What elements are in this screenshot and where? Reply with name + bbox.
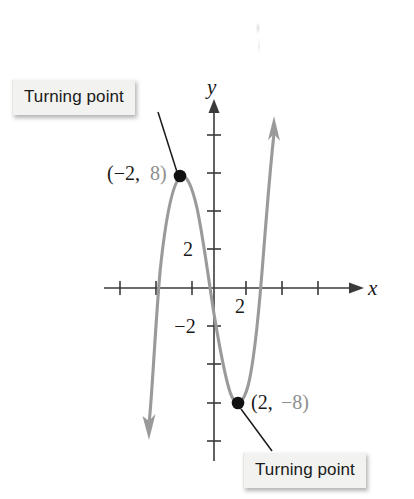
turning-point-min-label: (2, −8) (251, 391, 309, 414)
x-tick-label-positive-2: 2 (235, 295, 245, 317)
cubic-graph-figure: y x 2 −2 2 (−2, 8) (2, −8) (0, 0, 414, 499)
turning-point-min-label-gray: −8) (281, 391, 309, 414)
turning-point-max-label-gray: 8) (150, 162, 167, 185)
y-tick-label-negative-2: −2 (174, 315, 195, 337)
callout-turning-point-top[interactable]: Turning point (12, 79, 135, 115)
x-axis (104, 281, 364, 295)
callout-leader-line-bottom (241, 409, 272, 451)
callout-turning-point-bottom[interactable]: Turning point (243, 452, 366, 488)
x-axis-label: x (367, 276, 378, 300)
y-axis-label: y (205, 75, 217, 99)
y-tick-label-positive-2: 2 (183, 238, 193, 260)
turning-point-max-label-black: (−2, (107, 162, 140, 185)
turning-point-max-label: (−2, 8) (107, 162, 167, 185)
turning-point-min-marker (232, 397, 245, 410)
turning-point-max-marker (174, 170, 187, 183)
turning-point-min-label-black: (2, (251, 391, 273, 414)
